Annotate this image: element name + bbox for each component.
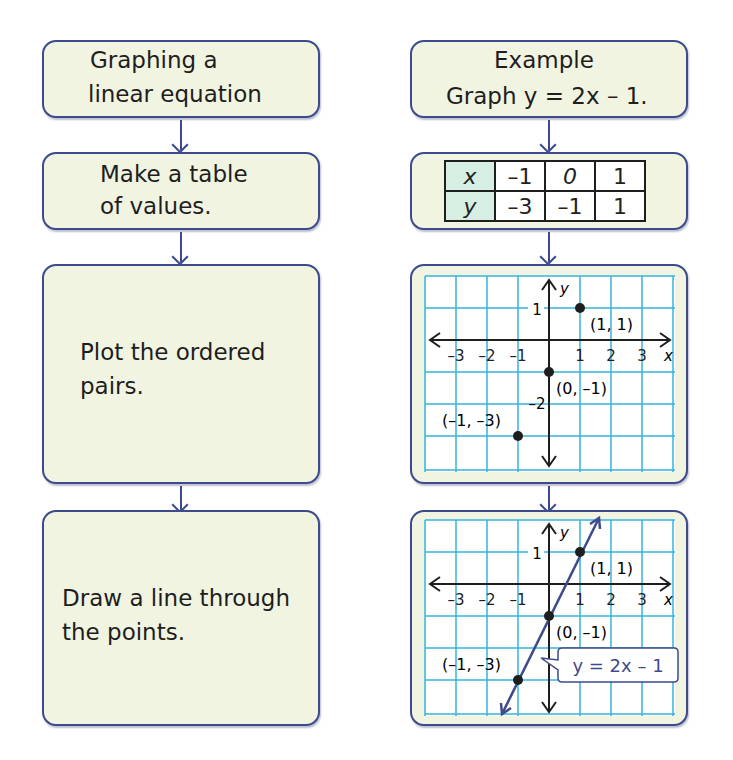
table-header-y: y bbox=[445, 191, 495, 221]
graph1-plot: 1 y x –3 –2 –1 1 2 3 –2 (1, 1) (0, –1) (… bbox=[410, 264, 688, 484]
table-cell: 0 bbox=[545, 161, 595, 191]
x-tick: –2 bbox=[478, 347, 495, 365]
arrow-down-icon bbox=[548, 232, 550, 262]
example-task: Graph y = 2x – 1. bbox=[446, 80, 648, 112]
point-0-neg1 bbox=[544, 611, 554, 621]
example-title: Example bbox=[494, 44, 594, 76]
step-1-line2: linear equation bbox=[88, 78, 262, 110]
step-2-line2: of values. bbox=[100, 190, 212, 222]
x-tick: 2 bbox=[606, 591, 616, 609]
step-3-line2: pairs. bbox=[80, 370, 144, 402]
x-tick: –3 bbox=[447, 591, 464, 609]
y-axis-label: y bbox=[559, 280, 570, 298]
values-table: x –1 0 1 y –3 –1 1 bbox=[444, 160, 646, 222]
step-1-line1: Graphing a bbox=[90, 44, 218, 76]
point-0-neg1 bbox=[544, 367, 554, 377]
y-tick-neg2: –2 bbox=[528, 395, 545, 413]
point-label: (–1, –3) bbox=[442, 655, 501, 674]
x-tick: 1 bbox=[575, 347, 585, 365]
arrow-down-icon bbox=[180, 232, 182, 262]
arrow-down-icon bbox=[180, 486, 182, 510]
table-cell: –1 bbox=[545, 191, 595, 221]
table-cell: 1 bbox=[595, 191, 645, 221]
x-axis-label: x bbox=[663, 591, 673, 609]
table-cell: 1 bbox=[595, 161, 645, 191]
x-tick: 1 bbox=[575, 591, 585, 609]
table-cell: –3 bbox=[495, 191, 545, 221]
table-row-x: x –1 0 1 bbox=[445, 161, 645, 191]
point-label: (1, 1) bbox=[590, 315, 633, 334]
point-neg1-neg3 bbox=[513, 431, 523, 441]
step-2-line1: Make a table bbox=[100, 158, 248, 190]
arrow-down-icon bbox=[548, 120, 550, 150]
point-label: (0, –1) bbox=[556, 623, 607, 642]
arrow-down-icon bbox=[180, 120, 182, 150]
point-1-1 bbox=[575, 547, 585, 557]
x-tick: –1 bbox=[509, 591, 526, 609]
x-tick: –3 bbox=[447, 347, 464, 365]
x-tick: –2 bbox=[478, 591, 495, 609]
point-label: (1, 1) bbox=[590, 559, 633, 578]
table-row-y: y –3 –1 1 bbox=[445, 191, 645, 221]
point-neg1-neg3 bbox=[513, 675, 523, 685]
step-4-line2: the points. bbox=[62, 616, 185, 648]
equation-label: y = 2x – 1 bbox=[572, 655, 663, 676]
y-tick-1: 1 bbox=[532, 545, 542, 563]
x-tick: 3 bbox=[637, 347, 647, 365]
step-4-line1: Draw a line through bbox=[62, 582, 290, 614]
point-label: (0, –1) bbox=[556, 379, 607, 398]
x-tick: 3 bbox=[637, 591, 647, 609]
table-cell: –1 bbox=[495, 161, 545, 191]
x-tick: –1 bbox=[509, 347, 526, 365]
point-1-1 bbox=[575, 303, 585, 313]
equation-callout: y = 2x – 1 bbox=[541, 648, 678, 682]
x-axis-label: x bbox=[663, 347, 673, 365]
y-tick-1: 1 bbox=[532, 301, 542, 319]
arrow-down-icon bbox=[548, 486, 550, 510]
step-3-line1: Plot the ordered bbox=[80, 336, 265, 368]
point-label: (–1, –3) bbox=[442, 411, 501, 430]
table-header-x: x bbox=[445, 161, 495, 191]
graph2-plot: 1 y x –3 –2 –1 1 2 3 (1, 1) (0, –1) (–1,… bbox=[410, 510, 688, 726]
x-tick: 2 bbox=[606, 347, 616, 365]
y-axis-label: y bbox=[559, 524, 570, 542]
